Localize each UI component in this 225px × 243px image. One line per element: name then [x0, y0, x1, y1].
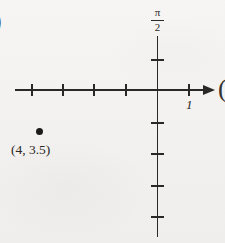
- y-axis-tick: [151, 122, 164, 124]
- x-axis-tick-one: [188, 84, 190, 96]
- x-axis-arrow-icon: [203, 85, 215, 95]
- x-axis-tick: [125, 84, 127, 96]
- y-axis-top-label: π 2: [151, 7, 164, 33]
- x-axis-tick: [31, 84, 33, 96]
- x-axis-tick-label-1: 1: [186, 98, 193, 111]
- paper-texture: [0, 0, 225, 243]
- data-point-label: (4, 3.5): [11, 142, 50, 158]
- figure-canvas: ) ( 1 π 2 (4, 3.5): [0, 0, 225, 243]
- y-axis-top-label-denominator: 2: [153, 22, 163, 34]
- x-axis-line: [15, 89, 205, 91]
- y-axis-tick: [151, 59, 164, 61]
- y-axis-tick: [151, 216, 164, 218]
- y-axis-tick: [151, 185, 164, 187]
- right-edge-partial-glyph: (: [218, 76, 225, 102]
- y-axis-line: [157, 36, 159, 237]
- x-axis-tick: [93, 84, 95, 96]
- data-point-marker: [36, 128, 43, 135]
- y-axis-tick: [151, 153, 164, 155]
- x-axis-tick: [62, 84, 64, 96]
- panel-label-partial-glyph: ): [0, 8, 2, 34]
- y-axis-top-label-numerator: π: [153, 7, 163, 19]
